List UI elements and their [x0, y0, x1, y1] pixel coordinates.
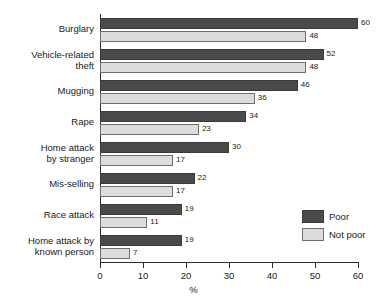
bar-row: 36 [100, 93, 358, 104]
x-axis-tick-label: 50 [310, 270, 321, 281]
x-axis-tick [143, 263, 144, 268]
bar-value-label: 36 [258, 94, 267, 102]
bar-poor [100, 235, 182, 246]
x-axis-tick [186, 263, 187, 268]
bar-poor [100, 142, 229, 153]
x-axis-tick-label: 20 [181, 270, 192, 281]
bar-value-label: 46 [301, 81, 310, 89]
x-axis-title: % [0, 284, 387, 295]
x-axis-tick-label: 10 [138, 270, 149, 281]
bar-row: 52 [100, 49, 358, 60]
bar-value-label: 60 [361, 19, 370, 27]
category-label: Vehicle-related theft [2, 50, 94, 71]
category-label: Rape [2, 117, 94, 128]
bar-value-label: 19 [185, 236, 194, 244]
bar-value-label: 17 [176, 187, 185, 195]
bar-not-poor [100, 186, 173, 197]
x-axis-tick-label: 60 [353, 270, 364, 281]
x-axis-tick [272, 263, 273, 268]
category-label: Race attack [2, 210, 94, 221]
bar-value-label: 22 [198, 174, 207, 182]
bar-value-label: 48 [309, 32, 318, 40]
bar-not-poor [100, 124, 199, 135]
legend-label: Poor [329, 211, 349, 222]
bar-row: 48 [100, 62, 358, 73]
legend-item: Poor [302, 210, 365, 223]
bar-row: 23 [100, 124, 358, 135]
bar-not-poor [100, 248, 130, 259]
bar-not-poor [100, 217, 147, 228]
bar-not-poor [100, 155, 173, 166]
bar-not-poor [100, 31, 306, 42]
category-label: Mugging [2, 86, 94, 97]
bar-not-poor [100, 93, 255, 104]
bar-value-label: 7 [133, 249, 137, 257]
bar-row: 30 [100, 142, 358, 153]
x-axis-tick [358, 263, 359, 268]
bar-poor [100, 80, 298, 91]
bar-value-label: 34 [249, 112, 258, 120]
bar-value-label: 48 [309, 63, 318, 71]
bar-row: 17 [100, 155, 358, 166]
x-axis-tick [229, 263, 230, 268]
x-axis-tick-label: 40 [267, 270, 278, 281]
bar-value-label: 30 [232, 143, 241, 151]
bar-row: 34 [100, 111, 358, 122]
category-label: Burglary [2, 24, 94, 35]
bar-not-poor [100, 62, 306, 73]
category-label: Home attack by stranger [2, 143, 94, 164]
bar-value-label: 17 [176, 156, 185, 164]
bar-poor [100, 204, 182, 215]
bar-value-label: 11 [150, 218, 158, 226]
category-label: Home attack by known person [2, 236, 94, 257]
bar-value-label: 19 [185, 205, 194, 213]
category-label: Mis-selling [2, 179, 94, 190]
bar-value-label: 52 [327, 50, 336, 58]
legend-label: Not poor [329, 229, 365, 240]
bar-row: 46 [100, 80, 358, 91]
legend-swatch-notpoor [302, 228, 324, 241]
legend-swatch-poor [302, 210, 324, 223]
chart-legend: PoorNot poor [302, 210, 365, 246]
bar-chart: 6048Burglary5248Vehicle-related theft463… [0, 0, 387, 298]
bar-row: 22 [100, 173, 358, 184]
x-axis-tick-label: 0 [97, 270, 102, 281]
x-axis-tick-label: 30 [224, 270, 235, 281]
x-axis-tick [315, 263, 316, 268]
bar-poor [100, 49, 324, 60]
bar-row: 48 [100, 31, 358, 42]
bar-row: 17 [100, 186, 358, 197]
bar-poor [100, 111, 246, 122]
legend-item: Not poor [302, 228, 365, 241]
bar-value-label: 23 [202, 125, 211, 133]
x-axis-tick [100, 263, 101, 268]
bar-row: 60 [100, 18, 358, 29]
bar-row: 7 [100, 248, 358, 259]
bar-poor [100, 18, 358, 29]
bar-poor [100, 173, 195, 184]
